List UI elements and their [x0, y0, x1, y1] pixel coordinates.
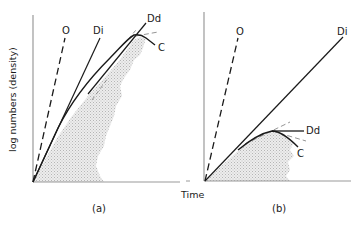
label-o-a: O — [62, 25, 70, 36]
label-di-a: Di — [93, 25, 103, 36]
label-di-b: Di — [337, 26, 347, 37]
population-growth-diagram: log numbers (density) O Di Dd C (a) Time — [0, 0, 359, 226]
label-c-b: C — [297, 148, 304, 159]
panel-label-a: (a) — [92, 203, 106, 214]
label-c-a: C — [158, 42, 165, 53]
label-dd-b: Dd — [306, 125, 320, 136]
label-o-b: O — [236, 26, 244, 37]
shaded-region-a — [33, 37, 146, 182]
panel-b: O Di Dd C (b) — [186, 12, 351, 214]
label-dd-a: Dd — [147, 13, 161, 24]
panel-label-b: (b) — [272, 203, 286, 214]
y-axis-label: log numbers (density) — [7, 47, 18, 152]
panel-a: O Di Dd C (a) — [33, 13, 180, 214]
shaded-region-b — [205, 131, 294, 181]
x-axis-label: Time — [180, 189, 204, 200]
